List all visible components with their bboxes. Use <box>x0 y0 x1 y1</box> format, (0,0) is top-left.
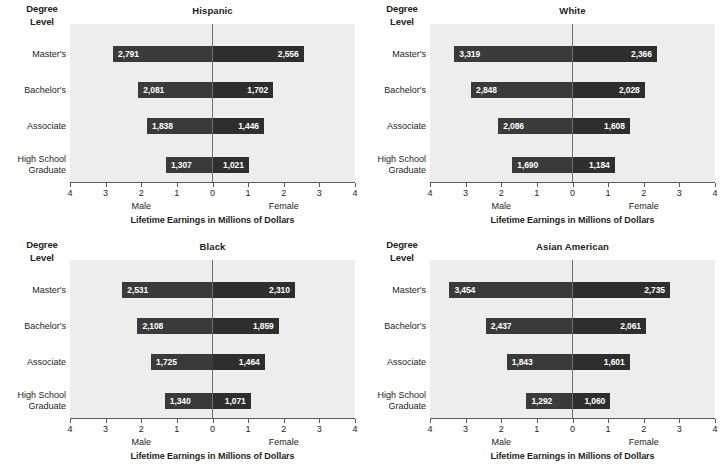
bar-value-label: 1,859 <box>253 318 274 334</box>
bar-value-label: 1,184 <box>589 157 610 173</box>
chart-panel-asian-american: DegreeLevelAsian American3,4542,7352,437… <box>360 236 720 472</box>
x-axis-title: Lifetime Earnings in Millions of Dollars <box>430 451 715 461</box>
x-axis-tick <box>573 419 574 423</box>
bar-female: 2,366 <box>573 46 657 62</box>
y-category-label-line: Graduate <box>360 401 426 412</box>
male-group-label: Male <box>111 201 171 211</box>
x-axis-tick-label: 1 <box>238 424 258 434</box>
bar-female: 2,061 <box>573 318 646 334</box>
y-category-label: Bachelor's <box>360 85 426 96</box>
y-category-label-line: Bachelor's <box>360 85 426 96</box>
x-axis-tick <box>106 419 107 423</box>
y-category-label-line: Associate <box>0 357 66 368</box>
y-category-label-line: Associate <box>0 121 66 132</box>
x-axis-tick-label: 1 <box>598 188 618 198</box>
x-axis-tick-label: 2 <box>491 188 511 198</box>
bar-value-label: 2,791 <box>118 46 139 62</box>
bar-female: 1,021 <box>213 157 249 173</box>
bar-row: 1,6901,184 <box>430 157 715 173</box>
bar-male: 3,319 <box>454 46 572 62</box>
x-axis-tick <box>537 183 538 187</box>
x-axis-tick <box>248 419 249 423</box>
bar-value-label: 2,310 <box>269 282 290 298</box>
y-category-label-line: Master's <box>360 285 426 296</box>
y-category-label: Associate <box>360 121 426 132</box>
y-category-label-line: High School <box>360 154 426 165</box>
bar-value-label: 1,843 <box>512 354 533 370</box>
degree-level-header: DegreeLevel <box>374 239 430 264</box>
x-axis-tick-label: 2 <box>634 424 654 434</box>
female-group-label: Female <box>254 201 314 211</box>
x-axis-tick <box>608 183 609 187</box>
x-axis-tick-label: 2 <box>131 188 151 198</box>
bar-female: 2,735 <box>573 282 670 298</box>
bar-value-label: 1,464 <box>239 354 260 370</box>
bar-row: 1,7251,464 <box>70 354 355 370</box>
x-axis-tick-label: 4 <box>60 424 80 434</box>
x-axis-tick <box>141 183 142 187</box>
y-category-label: High SchoolGraduate <box>0 390 66 412</box>
y-category-label-line: Bachelor's <box>0 321 66 332</box>
x-axis-tick-label: 3 <box>96 188 116 198</box>
bar-row: 1,8381,446 <box>70 118 355 134</box>
degree-level-header-line2: Level <box>14 252 70 265</box>
y-category-label: Master's <box>0 49 66 60</box>
x-axis-tick-label: 0 <box>203 188 223 198</box>
bar-value-label: 2,556 <box>278 46 299 62</box>
x-axis-tick-label: 3 <box>669 188 689 198</box>
chart-title: White <box>430 5 715 16</box>
degree-level-header-line2: Level <box>14 16 70 29</box>
x-axis-tick <box>319 419 320 423</box>
bar-value-label: 1,071 <box>225 393 246 409</box>
bar-value-label: 2,735 <box>644 282 665 298</box>
y-category-label-line: High School <box>360 390 426 401</box>
bar-value-label: 3,454 <box>454 282 475 298</box>
x-axis-tick-label: 1 <box>238 188 258 198</box>
x-axis-tick <box>177 183 178 187</box>
bar-value-label: 1,060 <box>584 393 605 409</box>
bar-female: 1,446 <box>213 118 265 134</box>
y-category-label-line: Master's <box>360 49 426 60</box>
y-category-label: High SchoolGraduate <box>360 154 426 176</box>
bar-value-label: 1,838 <box>152 118 173 134</box>
bar-male: 1,307 <box>166 157 213 173</box>
x-axis-tick <box>573 183 574 187</box>
bar-male: 1,690 <box>512 157 572 173</box>
bar-value-label: 1,608 <box>604 118 625 134</box>
x-axis-tick-label: 3 <box>669 424 689 434</box>
y-category-label-line: Associate <box>360 121 426 132</box>
bar-male: 2,081 <box>138 82 212 98</box>
x-axis-tick-label: 0 <box>563 424 583 434</box>
y-category-label: Associate <box>0 121 66 132</box>
x-axis-tick-label: 4 <box>420 424 440 434</box>
bar-value-label: 1,307 <box>171 157 192 173</box>
bar-row: 2,4372,061 <box>430 318 715 334</box>
degree-level-header-line2: Level <box>374 252 430 265</box>
x-axis-title: Lifetime Earnings in Millions of Dollars <box>430 215 715 225</box>
degree-level-header: DegreeLevel <box>14 3 70 28</box>
x-axis: 432101234MaleFemale <box>430 419 715 453</box>
bar-value-label: 2,531 <box>127 282 148 298</box>
plot-area: 2,7912,5562,0811,7021,8381,4461,3071,021 <box>70 24 355 183</box>
x-axis-tick <box>644 419 645 423</box>
y-category-label-line: Graduate <box>0 165 66 176</box>
bar-value-label: 2,366 <box>631 46 652 62</box>
x-axis-tick-label: 4 <box>705 424 720 434</box>
bar-female: 1,608 <box>573 118 630 134</box>
bar-male: 2,437 <box>486 318 573 334</box>
bar-row: 1,3401,071 <box>70 393 355 409</box>
bar-value-label: 1,725 <box>156 354 177 370</box>
x-axis-tick <box>213 183 214 187</box>
y-category-label: High SchoolGraduate <box>360 390 426 412</box>
x-axis-tick-label: 2 <box>274 188 294 198</box>
bar-female: 1,184 <box>573 157 615 173</box>
bar-male: 2,791 <box>113 46 212 62</box>
x-axis-tick <box>715 183 716 187</box>
female-group-label: Female <box>614 201 674 211</box>
bar-value-label: 2,437 <box>491 318 512 334</box>
x-axis-tick-label: 3 <box>456 188 476 198</box>
degree-level-header-line1: Degree <box>374 3 430 16</box>
x-axis-tick <box>70 183 71 187</box>
degree-level-header: DegreeLevel <box>14 239 70 264</box>
bar-row: 2,8482,028 <box>430 82 715 98</box>
